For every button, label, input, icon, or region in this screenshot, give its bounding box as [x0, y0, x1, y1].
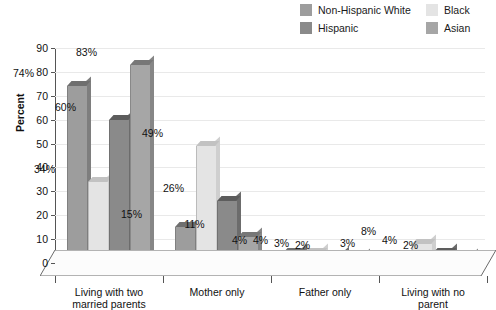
bar-face [283, 253, 303, 263]
legend-label: Hispanic [318, 22, 358, 34]
bar-face [196, 146, 216, 263]
x-axis-baseline [55, 263, 485, 264]
x-axis-category-label-line: Father only [265, 286, 385, 298]
bar-face [454, 258, 474, 263]
y-axis-tick-mark [51, 263, 55, 264]
bar[interactable] [109, 120, 128, 263]
bar-top-3d [109, 115, 133, 120]
bar[interactable] [67, 86, 86, 263]
y-axis-tick-label: 20 [24, 210, 48, 220]
bar[interactable] [304, 253, 323, 263]
bar-face [304, 253, 324, 263]
x-axis-category-label-line: Living with no [373, 286, 493, 298]
x-axis-tick-mark [55, 276, 56, 283]
y-axis-tick-label: 0 [24, 258, 48, 268]
x-axis-category-label-line: Mother only [157, 286, 277, 298]
bar[interactable] [454, 258, 473, 263]
y-axis-tick-label: 10 [24, 234, 48, 244]
bar[interactable] [217, 201, 236, 263]
gridline [55, 72, 485, 73]
bar-value-label: 3% [340, 238, 355, 249]
legend-entry[interactable]: Hispanic [300, 20, 358, 35]
bar[interactable] [283, 253, 302, 263]
x-axis-category-label: Living with twomarried parents [49, 286, 169, 310]
bar-face [346, 258, 366, 263]
y-axis-tick-mark [51, 144, 55, 145]
gridline [55, 96, 485, 97]
bar-value-label: 49% [142, 128, 163, 139]
y-axis-tick-label: 50 [24, 139, 48, 149]
bar-face [391, 256, 411, 263]
bar-value-label: 4% [382, 235, 397, 246]
bar-value-label: 4% [253, 235, 268, 246]
y-axis-tick-label: 70 [24, 91, 48, 101]
bar-face [88, 182, 108, 263]
bar[interactable] [346, 258, 365, 263]
bar-value-label: 74% [13, 68, 34, 79]
bar-value-label: 4% [232, 235, 247, 246]
x-axis-category-label: Father only [265, 286, 385, 298]
chart-legend: Non-Hispanic WhiteHispanicBlackAsian [296, 0, 496, 36]
legend-entry[interactable]: Asian [426, 20, 470, 35]
bar[interactable] [433, 253, 452, 263]
bar[interactable] [88, 182, 107, 263]
legend-swatch-icon [426, 4, 438, 16]
y-axis-tick-label: 60 [24, 115, 48, 125]
x-axis-category-label-line: parent [373, 298, 493, 310]
legend-swatch-icon [300, 4, 312, 16]
bar[interactable] [175, 227, 194, 263]
bar-value-label: 34% [34, 164, 55, 175]
bar[interactable] [196, 146, 215, 263]
y-axis-tick-mark [51, 239, 55, 240]
bar[interactable] [130, 65, 149, 263]
x-axis-category-label: Living with noparent [373, 286, 493, 310]
bar-chart: Percent 010203040506070809074%34%60%83%1… [0, 36, 496, 300]
bar-face [109, 120, 129, 263]
bar-value-label: 2% [295, 240, 310, 251]
legend-label: Non-Hispanic White [318, 4, 411, 16]
bar-value-label: 15% [121, 209, 142, 220]
bar-face [217, 201, 237, 263]
bar[interactable] [325, 256, 344, 263]
bar-value-label: 2% [403, 240, 418, 251]
y-axis-tick-label: 90 [24, 43, 48, 53]
legend-swatch-icon [426, 22, 438, 34]
x-axis-category-label: Mother only [157, 286, 277, 298]
x-axis-tick-mark [379, 276, 380, 283]
legend-entry[interactable]: Black [426, 2, 470, 17]
x-axis-category-label-line: married parents [49, 298, 169, 310]
x-axis-tick-mark [163, 276, 164, 283]
legend-entry[interactable]: Non-Hispanic White [300, 2, 411, 17]
legend-label: Black [444, 4, 470, 16]
bar-face [325, 256, 345, 263]
bar-value-label: 60% [55, 102, 76, 113]
bar-value-label: 8% [361, 226, 376, 237]
bar[interactable] [391, 256, 410, 263]
bar-value-label: 11% [184, 219, 204, 230]
y-axis-tick-mark [51, 96, 55, 97]
legend-label: Asian [444, 22, 470, 34]
y-axis-tick-mark [51, 215, 55, 216]
bar-value-label: 83% [76, 47, 97, 58]
gridline [55, 48, 485, 49]
legend-swatch-icon [300, 22, 312, 34]
bar-value-label: 26% [163, 183, 184, 194]
plot-area [55, 48, 485, 263]
bar-face [433, 253, 453, 263]
x-axis-category-label-line: Living with two [49, 286, 169, 298]
bar-value-label: 3% [274, 238, 289, 249]
y-axis-tick-mark [51, 72, 55, 73]
x-axis-tick-mark [487, 276, 488, 283]
y-axis-tick-mark [51, 48, 55, 49]
bar-face [130, 65, 150, 263]
y-axis-tick-mark [51, 191, 55, 192]
bar-face [175, 227, 195, 263]
x-axis-tick-mark [271, 276, 272, 283]
bar-face [67, 86, 87, 263]
y-axis-tick-label: 30 [24, 186, 48, 196]
y-axis-tick-mark [51, 120, 55, 121]
